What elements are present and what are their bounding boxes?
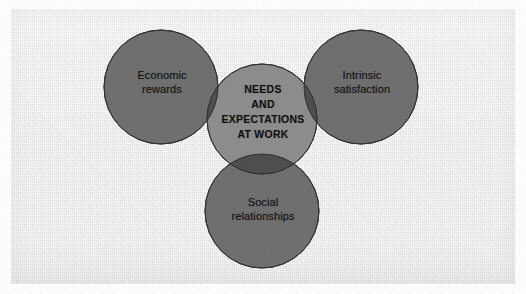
venn-svg (0, 0, 526, 294)
label-economic-rewards: Economic rewards (106, 68, 218, 96)
label-social-relationships: Social relationships (207, 195, 319, 223)
figure-canvas: Economic rewards Intrinsic satisfaction … (0, 0, 526, 294)
venn-diagram (0, 0, 526, 294)
label-needs-and-expectations-at-work: NEEDS AND EXPECTATIONS AT WORK (206, 82, 320, 142)
label-intrinsic-satisfaction: Intrinsic satisfaction (306, 68, 418, 96)
